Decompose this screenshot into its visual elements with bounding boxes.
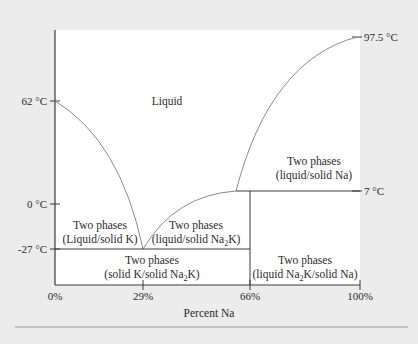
ylabel-62: 62 °C: [22, 95, 48, 107]
region-liquid-k-line1: Two phases: [73, 219, 127, 232]
region-liquid: Liquid: [152, 95, 183, 108]
xlabel-66: 66%: [240, 290, 260, 302]
xlabel-100: 100%: [347, 290, 373, 302]
xlabel-29: 29%: [133, 290, 153, 302]
region-liquid-na-line1: Two phases: [287, 155, 341, 168]
x-axis-title: Percent Na: [184, 307, 235, 319]
region-liquid-k-line2: (Liquid/solid K): [62, 233, 137, 246]
phase-diagram: 62 °C 0 °C -27 °C 97.5 °C 7 °C 0% 29% 66…: [0, 0, 418, 344]
region-solid-k-na2k-line1: Two phases: [125, 254, 179, 267]
ylabel-0: 0 °C: [27, 198, 47, 210]
region-na2k-na-line1: Two phases: [278, 254, 332, 267]
ylabel-97-5: 97.5 °C: [364, 31, 398, 43]
ylabel-7: 7 °C: [364, 185, 384, 197]
region-liquid-na2k-line1: Two phases: [169, 219, 223, 232]
region-liquid-na-line2: (liquid/solid Na): [276, 169, 353, 182]
xlabel-0: 0%: [48, 290, 63, 302]
ylabel-minus27: -27 °C: [18, 243, 47, 255]
